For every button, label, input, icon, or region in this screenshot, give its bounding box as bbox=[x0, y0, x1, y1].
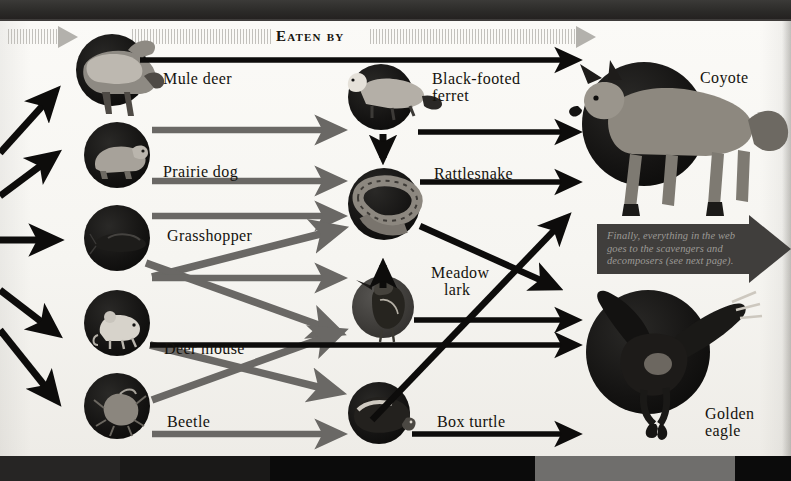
label-black-footed-ferret-line1: Black-footed bbox=[432, 70, 520, 87]
bottom-band-segment-1 bbox=[0, 456, 120, 481]
label-deer-mouse: Deer mouse bbox=[164, 341, 245, 357]
label-meadow-lark-line2: lark bbox=[444, 281, 489, 298]
label-meadow-lark: Meadow lark bbox=[431, 264, 489, 298]
incoming-arrow-4 bbox=[0, 290, 56, 333]
food-web-diagram: Eaten by bbox=[0, 0, 791, 481]
label-coyote: Coyote bbox=[700, 70, 749, 86]
arrow-grasshopper-to-meadow-lark bbox=[146, 263, 338, 332]
callout-arrowhead-icon bbox=[749, 215, 791, 283]
incoming-arrow-1 bbox=[0, 92, 55, 153]
callout-text: Finally, everything in the web goes to t… bbox=[607, 230, 747, 268]
page-bottom-band bbox=[0, 456, 791, 481]
incoming-arrow-2 bbox=[0, 155, 55, 196]
label-golden-eagle-line2: eagle bbox=[705, 422, 755, 439]
label-box-turtle: Box turtle bbox=[437, 414, 505, 430]
label-beetle: Beetle bbox=[167, 414, 210, 430]
incoming-arrow-group bbox=[0, 92, 56, 400]
label-black-footed-ferret: Black-footed ferret bbox=[432, 70, 520, 104]
incoming-arrow-5 bbox=[0, 330, 56, 400]
bottom-band-segment-4 bbox=[535, 456, 735, 481]
bottom-band-segment-2 bbox=[120, 456, 270, 481]
label-golden-eagle: Golden eagle bbox=[705, 405, 755, 439]
label-rattlesnake: Rattlesnake bbox=[434, 166, 513, 182]
bottom-band-segment-5 bbox=[735, 456, 791, 481]
label-grasshopper: Grasshopper bbox=[167, 228, 252, 244]
label-black-footed-ferret-line2: ferret bbox=[432, 87, 520, 104]
bottom-band-segment-3 bbox=[270, 456, 535, 481]
scavengers-callout: Finally, everything in the web goes to t… bbox=[597, 224, 791, 274]
label-mule-deer: Mule deer bbox=[163, 71, 232, 87]
label-meadow-lark-line1: Meadow bbox=[431, 264, 489, 281]
label-golden-eagle-line1: Golden bbox=[705, 405, 755, 422]
label-prairie-dog: Prairie dog bbox=[163, 164, 238, 180]
